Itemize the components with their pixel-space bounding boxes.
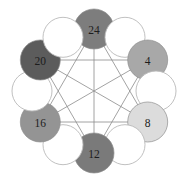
- ring-graph-canvas: 2448121620: [0, 0, 189, 181]
- graph-node-empty[interactable]: [43, 17, 83, 57]
- node-circle-outline: [43, 17, 83, 57]
- circular-graph-diagram: 2448121620: [0, 0, 189, 181]
